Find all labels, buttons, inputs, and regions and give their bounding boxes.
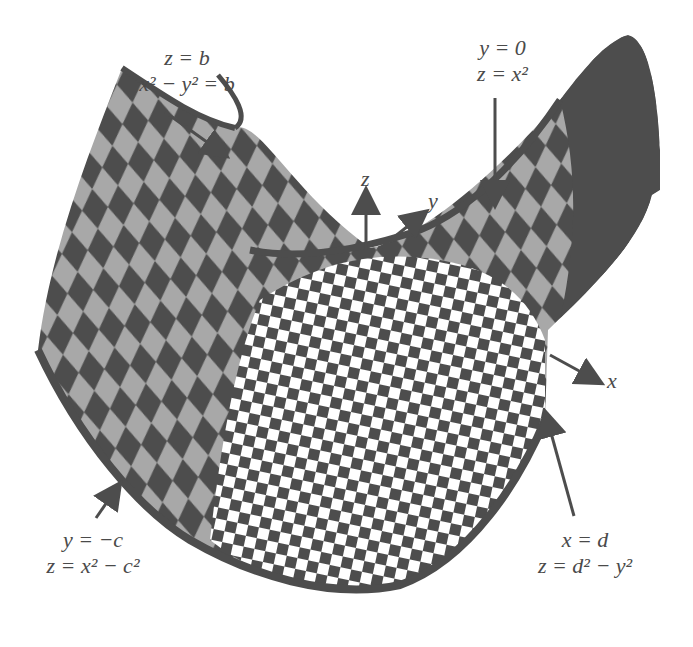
arrow-bottom-right — [548, 422, 574, 516]
label-top-left: z = b x² − y² = b — [112, 45, 262, 97]
label-bottom-right-line1: x = d — [515, 527, 655, 553]
x-axis-label: x — [607, 368, 617, 394]
x-axis-arrow — [550, 355, 592, 378]
label-bottom-left-line2: z = x² − c² — [28, 553, 158, 579]
y-axis-label: y — [428, 188, 438, 214]
label-bottom-left-line1: y = −c — [28, 527, 158, 553]
label-top-right: y = 0 z = x² — [455, 35, 550, 87]
label-bottom-right-line2: z = d² − y² — [515, 553, 655, 579]
label-top-right-line1: y = 0 — [455, 35, 550, 61]
label-top-left-line1: z = b — [112, 45, 262, 71]
label-bottom-left: y = −c z = x² − c² — [28, 527, 158, 579]
label-bottom-right: x = d z = d² − y² — [515, 527, 655, 579]
arrow-bottom-left — [96, 492, 114, 518]
label-top-right-line2: z = x² — [455, 61, 550, 87]
z-axis-label: z — [361, 166, 370, 192]
label-top-left-line2: x² − y² = b — [112, 71, 262, 97]
